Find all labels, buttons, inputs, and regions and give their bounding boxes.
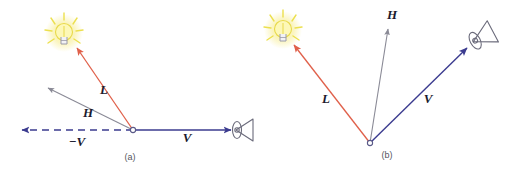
light-bulb-icon xyxy=(264,10,302,49)
label-h-b: H xyxy=(386,7,398,22)
label-l-a: L xyxy=(99,82,108,97)
panel-a: L H V −V (a) xyxy=(22,13,253,162)
origin-point xyxy=(130,127,135,132)
label-v-b: V xyxy=(424,91,434,106)
panel-caption-b: (b) xyxy=(382,150,393,160)
vector-v-arrow xyxy=(370,48,467,143)
label-minus-v-a: −V xyxy=(69,134,87,149)
panel-b: L H V (b) xyxy=(264,7,498,160)
figure-root: L H V −V (a) xyxy=(0,0,514,172)
origin-point xyxy=(367,140,372,145)
eye-icon xyxy=(233,119,254,141)
label-l-b: L xyxy=(321,91,330,106)
eye-icon xyxy=(465,21,498,54)
vector-diagram: L H V −V (a) xyxy=(0,0,514,172)
label-v-a: V xyxy=(183,130,193,145)
vector-l-arrow xyxy=(294,45,370,143)
vector-h-arrow xyxy=(370,29,388,143)
label-h-a: H xyxy=(82,105,94,120)
light-bulb-icon xyxy=(45,13,83,52)
panel-caption-a: (a) xyxy=(125,152,136,162)
